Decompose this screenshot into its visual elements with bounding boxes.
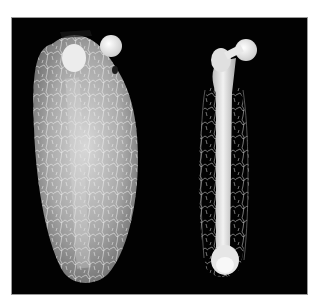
right-specimen xyxy=(199,39,257,277)
image-panel xyxy=(12,18,307,294)
left-specimen xyxy=(33,30,138,283)
vascular-render xyxy=(12,18,307,294)
